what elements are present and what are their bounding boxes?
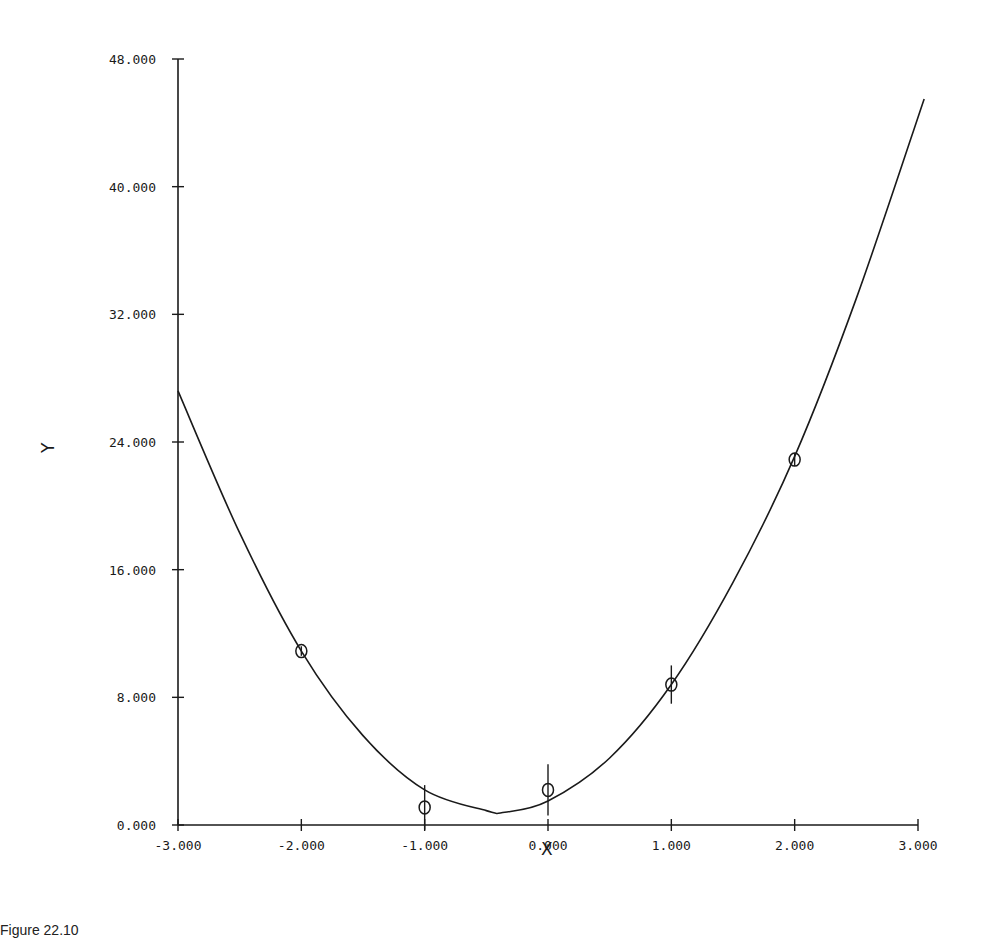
y-tick-label: 40.000 <box>109 180 156 195</box>
data-point <box>296 645 307 658</box>
y-axis: 0.0008.00016.00024.00032.00040.00048.000 <box>109 52 184 833</box>
y-tick-label: 16.000 <box>109 563 156 578</box>
x-tick-label: -2.000 <box>278 838 325 853</box>
y-tick-label: 24.000 <box>109 435 156 450</box>
data-point <box>789 453 800 466</box>
data-point <box>666 665 677 703</box>
x-tick-label: 2.000 <box>775 838 814 853</box>
x-axis-title: X <box>541 839 553 859</box>
y-tick-label: 32.000 <box>109 307 156 322</box>
data-points <box>296 453 800 830</box>
figure-caption: Figure 22.10 <box>0 922 79 938</box>
y-tick-label: 0.000 <box>117 818 156 833</box>
y-tick-label: 8.000 <box>117 690 156 705</box>
y-axis-title: Y <box>38 442 58 454</box>
fitted-curve <box>178 99 924 814</box>
x-tick-label: 3.000 <box>898 838 937 853</box>
x-tick-label: -3.000 <box>155 838 202 853</box>
x-tick-label: -1.000 <box>401 838 448 853</box>
data-point <box>543 764 554 815</box>
y-tick-label: 48.000 <box>109 52 156 67</box>
x-tick-label: 1.000 <box>652 838 691 853</box>
